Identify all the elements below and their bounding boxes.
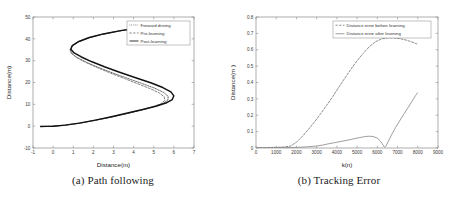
x-tick-label: 1000 — [271, 150, 282, 155]
legend-label: Forward driving — [141, 23, 172, 28]
y-tick-label: 0 — [251, 146, 254, 151]
y-tick-label: 0.8 — [247, 15, 254, 20]
x-tick-label: 6000 — [372, 150, 383, 155]
x-tick-label: -1 — [31, 150, 36, 155]
x-axis-title: Distance(m) — [97, 161, 130, 168]
figure-container: -101234567-1001020304050 Distance(m) Dis… — [0, 0, 452, 205]
legend-label: Pre-learning — [141, 31, 165, 36]
x-tick-label: 3000 — [312, 150, 323, 155]
panel-path-following: -101234567-1001020304050 Distance(m) Dis… — [0, 0, 226, 205]
y-tick-label: 0.4 — [247, 80, 254, 85]
y-tick-label: 30 — [25, 58, 31, 63]
y-tick-label: 10 — [25, 102, 31, 107]
x-tick-label: 0 — [255, 150, 258, 155]
legend[interactable]: Forward drivingPre-learningPost-learning — [127, 21, 190, 45]
y-tick-label: 0.6 — [247, 47, 254, 52]
panel-tracking-error: 010002000300040005000600070008000900000.… — [226, 0, 452, 205]
x-tick-label: 5000 — [352, 150, 363, 155]
x-tick-label: 4000 — [332, 150, 343, 155]
x-tick-label: 3 — [112, 150, 115, 155]
x-tick-label: 5 — [152, 150, 155, 155]
legend-label: Post-learning — [141, 39, 167, 44]
x-tick-label: 8000 — [413, 150, 424, 155]
panel-b-caption: (b) Tracking Error — [226, 174, 452, 186]
x-tick-label: 4 — [132, 150, 135, 155]
panel-a-caption: (a) Path following — [0, 174, 226, 186]
legend-label: Distance error after learning — [347, 31, 402, 36]
x-tick-label: 7000 — [392, 150, 403, 155]
legend-label: Distance error before learning — [347, 23, 406, 28]
x-tick-label: 2000 — [291, 150, 302, 155]
chart-path-following: -101234567-1001020304050 Distance(m) Dis… — [0, 0, 226, 172]
legend[interactable]: Distance error before learningDistance e… — [333, 21, 431, 38]
y-tick-label: -10 — [24, 146, 31, 151]
x-axis-title: k(n) — [342, 161, 353, 168]
y-axis-title: Distance(m) — [5, 66, 12, 99]
y-tick-label: 0.5 — [247, 64, 254, 69]
x-tick-label: 0 — [52, 150, 55, 155]
chart-tracking-error: 010002000300040005000600070008000900000.… — [226, 0, 452, 172]
y-tick-label: 50 — [25, 15, 31, 20]
x-tick-label: 7 — [193, 150, 196, 155]
y-tick-label: 20 — [25, 80, 31, 85]
x-tick-label: 2 — [92, 150, 95, 155]
x-tick-label: 1 — [72, 150, 75, 155]
y-tick-label: 0 — [28, 124, 31, 129]
y-tick-label: 0.2 — [247, 113, 254, 118]
y-tick-label: 0.1 — [247, 129, 254, 134]
y-tick-label: 40 — [25, 37, 31, 42]
y-tick-label: 0.7 — [247, 31, 254, 36]
x-tick-label: 9000 — [433, 150, 444, 155]
x-tick-label: 6 — [173, 150, 176, 155]
y-tick-label: 0.3 — [247, 97, 254, 102]
y-axis-title: Distance(m ) — [229, 65, 236, 100]
